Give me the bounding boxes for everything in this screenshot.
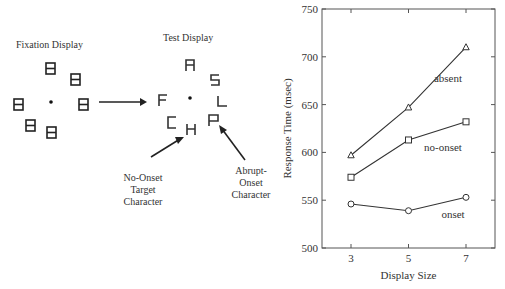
square-marker <box>406 137 412 143</box>
y-tick-label: 600 <box>302 146 319 158</box>
x-tick-label: 5 <box>406 252 412 264</box>
square-marker <box>348 174 354 180</box>
y-tick-label: 550 <box>302 194 319 206</box>
x-tick-label: 7 <box>463 252 469 264</box>
y-tick-label: 650 <box>302 99 319 111</box>
y-tick-label: 750 <box>302 3 319 15</box>
y-tick-label: 500 <box>302 242 319 254</box>
series-label-onset: onset <box>441 208 464 220</box>
y-axis-label: Response Time (msec) <box>281 78 294 179</box>
circle-marker <box>348 201 354 207</box>
x-tick-label: 3 <box>348 252 354 264</box>
y-tick-label: 700 <box>302 51 319 63</box>
series-label-no-onset: no-onset <box>424 141 462 153</box>
circle-marker <box>406 208 412 214</box>
series-label-absent: absent <box>434 72 462 84</box>
circle-marker <box>463 194 469 200</box>
x-axis-label: Display Size <box>381 269 437 281</box>
triangle-marker <box>348 152 354 158</box>
square-marker <box>463 119 469 125</box>
response-time-chart: 500550600650700750357Display SizeRespons… <box>0 0 505 289</box>
triangle-marker <box>463 44 469 50</box>
